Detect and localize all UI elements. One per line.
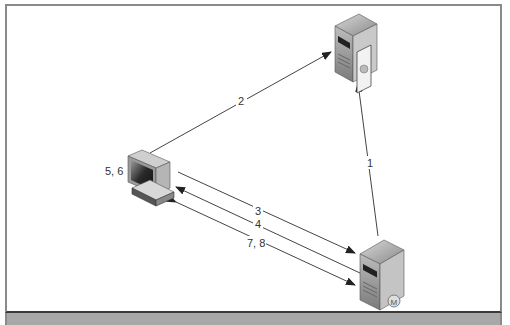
edge-3: 3: [178, 172, 355, 253]
edge-1: 1: [358, 83, 378, 236]
edge-4: 4: [176, 187, 360, 273]
edge-label-1: 1: [367, 157, 373, 169]
flow-diagram: 1 2 3 4 7, 8 5,: [0, 0, 510, 325]
workstation-icon: [128, 150, 174, 206]
server-m-icon: M: [360, 240, 404, 310]
workstation-label: 5, 6: [105, 165, 123, 177]
edge-2: 2: [150, 52, 331, 153]
edge-7-8: 7, 8: [176, 202, 355, 285]
svg-text:M: M: [391, 298, 398, 307]
edge-label-2: 2: [238, 95, 244, 107]
server-certificate-icon: [335, 14, 377, 93]
edge-label-3: 3: [255, 205, 261, 217]
edge-label-4: 4: [255, 218, 261, 230]
edge-label-7-8: 7, 8: [247, 237, 265, 249]
